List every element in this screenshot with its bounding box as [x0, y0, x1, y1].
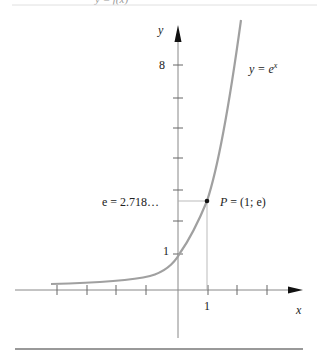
curve-label-text: y = e [249, 62, 274, 76]
exp-curve [51, 20, 241, 284]
x-tick-label-1: 1 [204, 300, 210, 312]
exp-function-graph [0, 0, 317, 353]
curve-label-exponent: x [274, 61, 278, 70]
y-tick-label-8: 8 [159, 59, 165, 71]
y-tick-label-1: 1 [163, 245, 169, 257]
point-p-label: P = (1; e) [220, 196, 266, 208]
x-axis [15, 285, 303, 295]
y-axis [173, 25, 183, 338]
e-value-label: e = 2.718… [102, 196, 159, 208]
point-p-coords: = (1; e) [227, 195, 265, 209]
y-axis-label: y [158, 24, 163, 36]
x-axis-label: x [296, 304, 301, 316]
curve-label: y = ex [249, 62, 277, 75]
y-axis-arrow-icon [175, 25, 182, 42]
x-axis-arrow-icon [288, 287, 303, 294]
point-p-marker [205, 199, 210, 204]
